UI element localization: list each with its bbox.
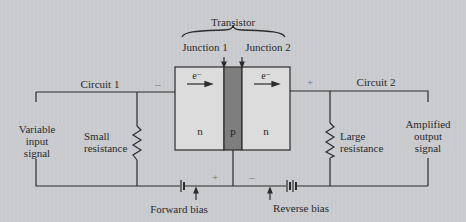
small-resistance-label: Small resistance: [84, 130, 132, 154]
polarity-bottom-right: –: [246, 171, 258, 183]
polarity-top-right: +: [304, 76, 316, 88]
circuit-drawing: [0, 0, 466, 222]
transistor-diagram: Transistor Junction 1 Junction 2 Circuit…: [0, 0, 466, 222]
forward-bias-label: Forward bias: [144, 203, 214, 215]
circuit2-label: Circuit 2: [346, 76, 406, 88]
output-signal-label: Amplified output signal: [401, 118, 455, 154]
large-resistance-label: Large resistance: [340, 130, 400, 154]
circuit1-label: Circuit 1: [70, 78, 130, 90]
junction1-label: Junction 1: [180, 41, 230, 53]
reverse-bias-label: Reverse bias: [266, 202, 336, 214]
p-region-label: p: [225, 125, 241, 137]
input-signal-label: Variable input signal: [10, 123, 64, 159]
n-region-left-label: n: [192, 125, 208, 137]
polarity-top-left: –: [152, 78, 164, 90]
n-region-right-label: n: [258, 125, 274, 137]
small-resistor-zigzag: [133, 126, 141, 160]
base-wire: [233, 150, 286, 186]
p-region: [224, 67, 242, 150]
transistor-title: Transistor: [208, 16, 258, 28]
large-resistor-zigzag: [326, 123, 334, 158]
junction2-label: Junction 2: [240, 41, 296, 53]
electron-label-right: e⁻: [258, 70, 274, 82]
polarity-bottom-left: +: [209, 171, 221, 183]
electron-label-left: e⁻: [189, 70, 205, 82]
